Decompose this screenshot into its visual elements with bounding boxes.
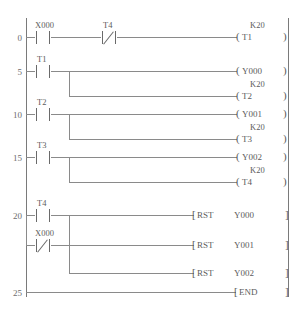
step-number-25: 25 [2,288,22,298]
wire-branch-to-rst-y002 [69,273,194,274]
contact-label-t3-r15: T3 [37,140,46,150]
block-close-bracket-end: ] [285,286,289,297]
coil-open-paren-y000: ( [236,65,240,76]
output-branch-vertical-r20 [69,215,70,274]
ladder-diagram: 0 X000 T4 K20 ( T1 ) 5 T1 ( Y000 ) K20 (… [0,0,299,312]
wire-rail-to-t3-r15 [26,157,35,158]
step-number-5: 5 [2,67,22,77]
coil-label-t3[interactable]: T3 [242,134,252,144]
contact-label-x000-r20: X000 [35,228,54,238]
block-open-bracket-rst-y000: [ [192,209,196,220]
contact-bar-left [36,151,37,164]
wire-rail-to-x000-r20 [26,245,35,246]
contact-bar-right [49,151,50,164]
coil-close-paren-t2: ) [283,90,287,101]
coil-close-paren-y002: ) [283,151,287,162]
preset-label-t1: K20 [250,20,265,30]
contact-bar-left [36,65,37,78]
coil-open-paren-t1: ( [236,31,240,42]
wire-branch-to-t2-r5 [69,96,237,97]
coil-close-paren-y000: ) [283,65,287,76]
preset-label-t2: K20 [250,79,265,89]
wire-rail-to-t4-r20 [26,215,35,216]
contact-slash-icon [103,31,114,44]
step-number-20: 20 [2,211,22,221]
wire-rail-to-end [26,292,236,293]
coil-open-paren-y002: ( [236,151,240,162]
contact-bar-left [36,31,37,44]
contact-bar-right [49,31,50,44]
coil-close-paren-t4: ) [283,176,287,187]
block-mnemonic-rst-y000[interactable]: RST [197,210,214,220]
contact-x000-nc-r20[interactable] [34,239,52,252]
coil-label-t1[interactable]: T1 [242,32,252,42]
wire-t4-to-coil-r0 [117,37,237,38]
coil-label-y000[interactable]: Y000 [242,66,262,76]
input-branch-vertical-r20 [26,215,27,246]
wire-x000-to-t4-r0 [51,37,101,38]
block-operand-rst-y001[interactable]: Y001 [234,240,254,250]
block-operand-rst-y002[interactable]: Y002 [234,268,254,278]
contact-bar-right [49,209,50,222]
contact-slash-icon [37,239,48,252]
coil-label-t4[interactable]: T4 [242,177,252,187]
branch-vertical-r10 [69,114,70,139]
block-mnemonic-end[interactable]: END [239,287,258,297]
contact-t1-no-r5[interactable] [34,65,52,78]
block-open-bracket-end: [ [234,286,238,297]
coil-open-paren-t3: ( [236,133,240,144]
coil-label-y001[interactable]: Y001 [242,109,262,119]
wire-rail-to-t2-r10 [26,114,35,115]
contact-x000-no-r0[interactable] [34,31,52,44]
contact-t3-no-r15[interactable] [34,151,52,164]
contact-t4-no-r20[interactable] [34,209,52,222]
right-power-rail [288,18,289,297]
preset-label-t4: K20 [250,165,265,175]
step-number-15: 15 [2,153,22,163]
contact-bar-left [102,31,103,44]
contact-bar-left [36,239,37,252]
wire-t3-to-y002-r15 [51,157,237,158]
contact-t2-no-r10[interactable] [34,108,52,121]
block-close-bracket-rst-y001: ] [285,239,289,250]
coil-open-paren-y001: ( [236,108,240,119]
contact-bar-right [49,65,50,78]
step-number-0: 0 [2,33,22,43]
branch-vertical-r5 [69,71,70,96]
wire-t2-to-y001-r10 [51,114,237,115]
block-open-bracket-rst-y002: [ [192,267,196,278]
coil-label-t2[interactable]: T2 [242,91,252,101]
block-close-bracket-rst-y002: ] [285,267,289,278]
contact-label-t4-r20: T4 [37,198,46,208]
wire-t4-to-rst-y000 [51,215,194,216]
contact-bar-left [36,108,37,121]
block-close-bracket-rst-y000: ] [285,209,289,220]
block-mnemonic-rst-y001[interactable]: RST [197,240,214,250]
wire-branch-to-t3-r10 [69,139,237,140]
coil-close-paren-t1: ) [283,31,287,42]
contact-bar-right [49,108,50,121]
contact-label-t2-r10: T2 [37,97,46,107]
coil-label-y002[interactable]: Y002 [242,152,262,162]
coil-open-paren-t2: ( [236,90,240,101]
wire-rail-to-t1-r5 [26,71,35,72]
contact-label-t1-r5: T1 [37,54,46,64]
contact-t4-nc-r0[interactable] [100,31,118,44]
block-open-bracket-rst-y001: [ [192,239,196,250]
coil-close-paren-y001: ) [283,108,287,119]
wire-t1-to-y000-r5 [51,71,237,72]
step-number-10: 10 [2,110,22,120]
contact-label-t4-r0: T4 [103,20,112,30]
branch-vertical-r15 [69,157,70,182]
contact-bar-right [115,31,116,44]
block-operand-rst-y000[interactable]: Y000 [234,210,254,220]
wire-branch-to-t4-r15 [69,182,237,183]
block-mnemonic-rst-y002[interactable]: RST [197,268,214,278]
preset-label-t3: K20 [250,122,265,132]
wire-rail-to-x000-r0 [26,37,35,38]
contact-bar-right [49,239,50,252]
coil-close-paren-t3: ) [283,133,287,144]
contact-label-x000-r0: X000 [35,20,54,30]
contact-bar-left [36,209,37,222]
coil-open-paren-t4: ( [236,176,240,187]
